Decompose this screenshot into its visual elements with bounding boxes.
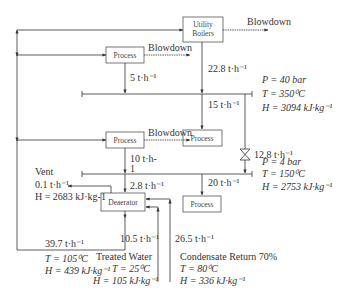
treated-water-enthalpy: H = 105 kJ·kg⁻¹	[92, 275, 158, 286]
process-lp-use-label: Process	[191, 200, 214, 209]
condensate-enthalpy: H = 336 kJ·kg⁻¹	[179, 275, 245, 286]
steam-system-diagram: Utility Boilers Blowdown Process Blowdow…	[0, 0, 339, 298]
lp-process-flow-label-cont: 1	[130, 163, 135, 174]
treated-water-label: Treated Water	[96, 251, 153, 262]
process-lp-box[interactable]: Process	[106, 132, 144, 148]
utility-boilers-label-2: Boilers	[192, 29, 214, 38]
utility-boilers-box[interactable]: Utility Boilers	[183, 17, 223, 42]
process-lp-label: Process	[114, 136, 137, 145]
vent-label: Vent	[35, 166, 54, 177]
process-hp-use-label: Process	[191, 134, 214, 143]
hp-header	[82, 91, 252, 97]
lp-enthalpy: H = 2753 kJ·kg⁻¹	[261, 181, 332, 192]
lp-use-label: 20 t·h⁻¹	[208, 177, 240, 188]
hp-process-flow-label: 5 t·h⁻¹	[130, 72, 157, 83]
process-hp-label: Process	[114, 51, 137, 60]
deaerator-label: Deaerator	[108, 198, 138, 207]
hp-use-label: 15 t·h⁻¹	[208, 99, 240, 110]
lp-pressure: P = 4 bar	[261, 156, 301, 167]
process-hp-box[interactable]: Process	[106, 47, 144, 63]
boiler-steam-label: 22.8 t·h⁻¹	[208, 63, 247, 74]
process-lp-use-box[interactable]: Process	[183, 196, 221, 212]
blowdown-lp-label: Blowdown	[148, 127, 192, 138]
deaerator-box[interactable]: Deaerator	[101, 193, 145, 211]
hp-pressure: P = 40 bar	[261, 74, 306, 85]
bfw-flow-label: 39.7 t·h⁻¹	[45, 238, 84, 249]
treated-water-flow: 10.5 t·h⁻¹	[120, 233, 159, 244]
letdown-valve-icon[interactable]	[240, 149, 250, 160]
treated-water-temperature: T = 25⁰C	[112, 263, 150, 274]
bfw-temperature: T = 105⁰C	[45, 253, 88, 264]
vent-flow: 0.1 t·h⁻¹	[35, 179, 69, 190]
hp-enthalpy: H = 3094 kJ·kg⁻¹	[261, 102, 332, 113]
vent-enthalpy: H = 2683 kJ·kg-1	[35, 191, 106, 202]
lp-temperature: T = 150⁰C	[262, 168, 305, 179]
blowdown-boilers-label: Blowdown	[247, 16, 291, 27]
blowdown-hp-label: Blowdown	[148, 42, 192, 53]
deaerator-steam-label: 2.8 t·h⁻¹	[130, 180, 164, 191]
condensate-label: Condensate Return 70%	[180, 251, 277, 262]
condensate-temperature: T = 80⁰C	[180, 263, 218, 274]
hp-temperature: T = 350⁰C	[262, 88, 305, 99]
condensate-flow: 26.5 t·h⁻¹	[175, 233, 214, 244]
utility-boilers-label-1: Utility	[193, 20, 213, 29]
